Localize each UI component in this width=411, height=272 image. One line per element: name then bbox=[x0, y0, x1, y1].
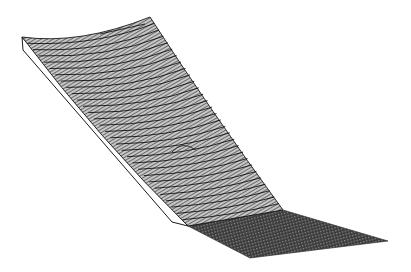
surface-plot-canvas bbox=[0, 0, 411, 272]
surface-plot-figure: 3D wireframe surface plot: a curved shee… bbox=[0, 0, 411, 272]
